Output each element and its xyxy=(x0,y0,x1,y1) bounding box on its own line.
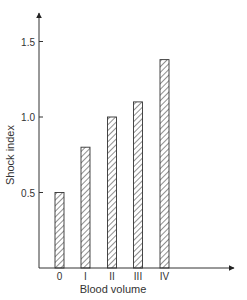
y-tick-label: 1.5 xyxy=(21,37,35,48)
x-tick-label: IV xyxy=(160,271,170,282)
bars-group xyxy=(55,60,169,268)
x-tick-label: 0 xyxy=(57,271,63,282)
bar-chart: 0.51.01.5 0IIIIIIIV Blood volume Shock i… xyxy=(0,0,247,300)
bar-IV xyxy=(160,60,169,268)
y-axis-label: Shock index xyxy=(4,125,16,185)
bar-II xyxy=(108,117,117,268)
y-tick-label: 0.5 xyxy=(21,188,35,199)
x-ticks: 0IIIIIIIV xyxy=(57,271,170,282)
x-tick-label: III xyxy=(134,271,142,282)
y-ticks: 0.51.01.5 xyxy=(21,37,43,199)
x-axis-label: Blood volume xyxy=(80,283,147,295)
x-tick-label: II xyxy=(109,271,115,282)
bar-III xyxy=(134,102,143,268)
y-tick-label: 1.0 xyxy=(21,112,35,123)
bar-0 xyxy=(55,193,64,269)
x-tick-label: I xyxy=(84,271,87,282)
bar-I xyxy=(81,147,90,268)
